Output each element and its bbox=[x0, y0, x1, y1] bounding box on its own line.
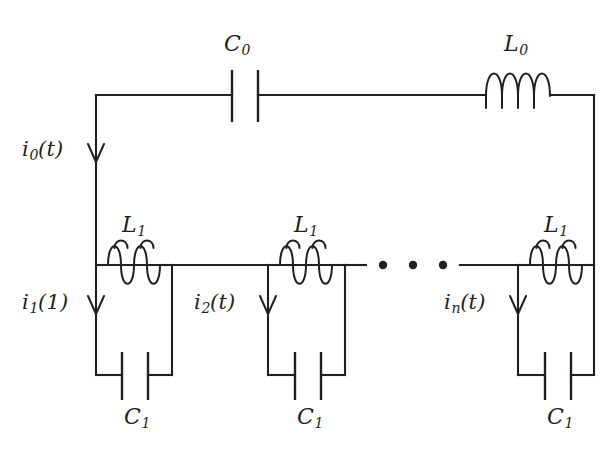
label-current-i1: i1(1) bbox=[22, 292, 68, 313]
label-current-i2: i2(t) bbox=[194, 292, 235, 313]
label-c1-cell1: C1 bbox=[124, 406, 150, 428]
label-current-i0: i0(t) bbox=[22, 139, 63, 160]
label-current-in: in(t) bbox=[444, 292, 486, 313]
label-c0: C0 bbox=[224, 33, 250, 55]
label-c1-celln: C1 bbox=[547, 406, 573, 428]
ellipsis-dot-3 bbox=[439, 261, 447, 269]
lc-ladder-circuit-diagram: C0 L0 L1 L1 L1 C1 C1 C1 i0(t) i1(1) i2(t… bbox=[0, 0, 616, 460]
ellipsis-dot-2 bbox=[409, 261, 417, 269]
label-l1-cell1: L1 bbox=[122, 214, 146, 236]
l0-inductor-coil bbox=[486, 74, 550, 97]
label-l0: L0 bbox=[504, 33, 528, 55]
label-l1-celln: L1 bbox=[544, 214, 568, 236]
label-c1-cell2: C1 bbox=[297, 406, 323, 428]
ellipsis-dot-1 bbox=[379, 261, 387, 269]
label-l1-cell2: L1 bbox=[294, 214, 318, 236]
